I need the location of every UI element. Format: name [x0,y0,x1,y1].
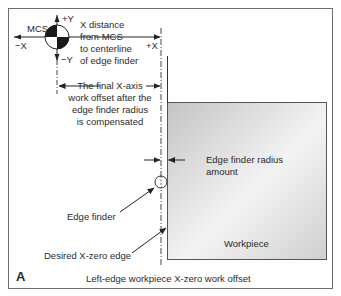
minus-x-label: −X [15,40,27,52]
diagram-figure: MCS +Y −Y −X +X X distance from MCS to c… [0,0,341,296]
mcs-origin-icon [45,25,69,49]
workpiece-label: Workpiece [224,238,269,250]
panel-letter: A [16,271,25,283]
desired-edge-label: Desired X-zero edge [44,250,131,262]
workpiece-block [168,103,327,260]
plus-x-label: +X [146,40,158,52]
figure-caption: Left-edge workpiece X-zero work offset [86,273,251,285]
x-distance-annotation: X distance from MCS to centerline of edg… [80,19,138,67]
final-offset-annotation: The final X-axis work offset after the e… [62,80,158,128]
minus-y-label: −Y [61,54,73,66]
edge-finder-label: Edge finder [67,211,116,223]
plus-y-label: +Y [62,13,74,25]
mcs-label: MCS [27,23,48,35]
radius-amount-annotation: Edge finder radius amount [206,154,283,178]
